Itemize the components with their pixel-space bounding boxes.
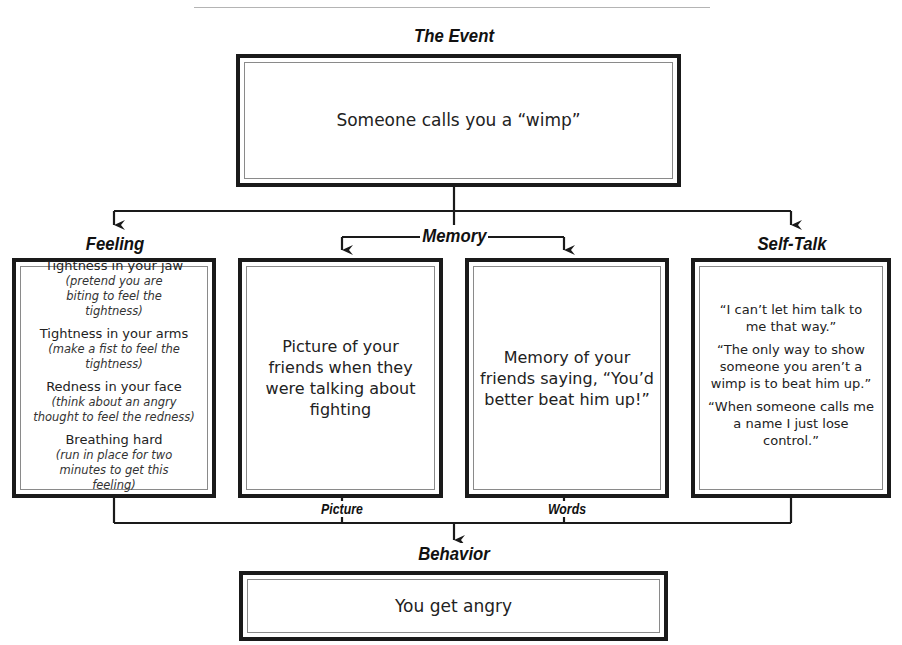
picture-box: Picture of your friends when they were t… xyxy=(238,258,443,498)
feeling-heading: Feeling xyxy=(75,233,154,255)
feeling-item: Breathing hard (run in place for two min… xyxy=(21,431,207,493)
feeling-item: Tightness in your arms (make a fist to f… xyxy=(21,325,207,372)
event-heading: The Event xyxy=(410,25,498,47)
event-text: Someone calls you a “wimp” xyxy=(336,110,580,131)
feeling-item: Tightness in your jaw (pretend you are b… xyxy=(21,257,207,319)
picture-label: Picture xyxy=(316,501,369,517)
behavior-heading: Behavior xyxy=(410,543,498,565)
behavior-box: You get angry xyxy=(239,571,668,641)
memory-heading: Memory xyxy=(422,225,485,247)
feeling-item: Redness in your face (think about an ang… xyxy=(21,378,207,425)
words-label: Words xyxy=(543,501,591,517)
self-talk-item: “The only way to show someone you aren’t… xyxy=(700,341,882,392)
self-talk-heading: Self-Talk xyxy=(748,233,836,255)
words-text: Memory of your friends saying, “You’d be… xyxy=(474,347,660,410)
feeling-box: Tightness in your jaw (pretend you are b… xyxy=(12,258,216,498)
event-box: Someone calls you a “wimp” xyxy=(236,54,681,187)
picture-text: Picture of your friends when they were t… xyxy=(247,336,434,420)
self-talk-item: “I can’t let him talk to me that way.” xyxy=(700,301,882,335)
self-talk-item: “When someone calls me a name I just los… xyxy=(700,398,882,449)
behavior-text: You get angry xyxy=(395,596,512,617)
self-talk-box: “I can’t let him talk to me that way.” “… xyxy=(691,258,891,498)
words-box: Memory of your friends saying, “You’d be… xyxy=(465,258,669,498)
